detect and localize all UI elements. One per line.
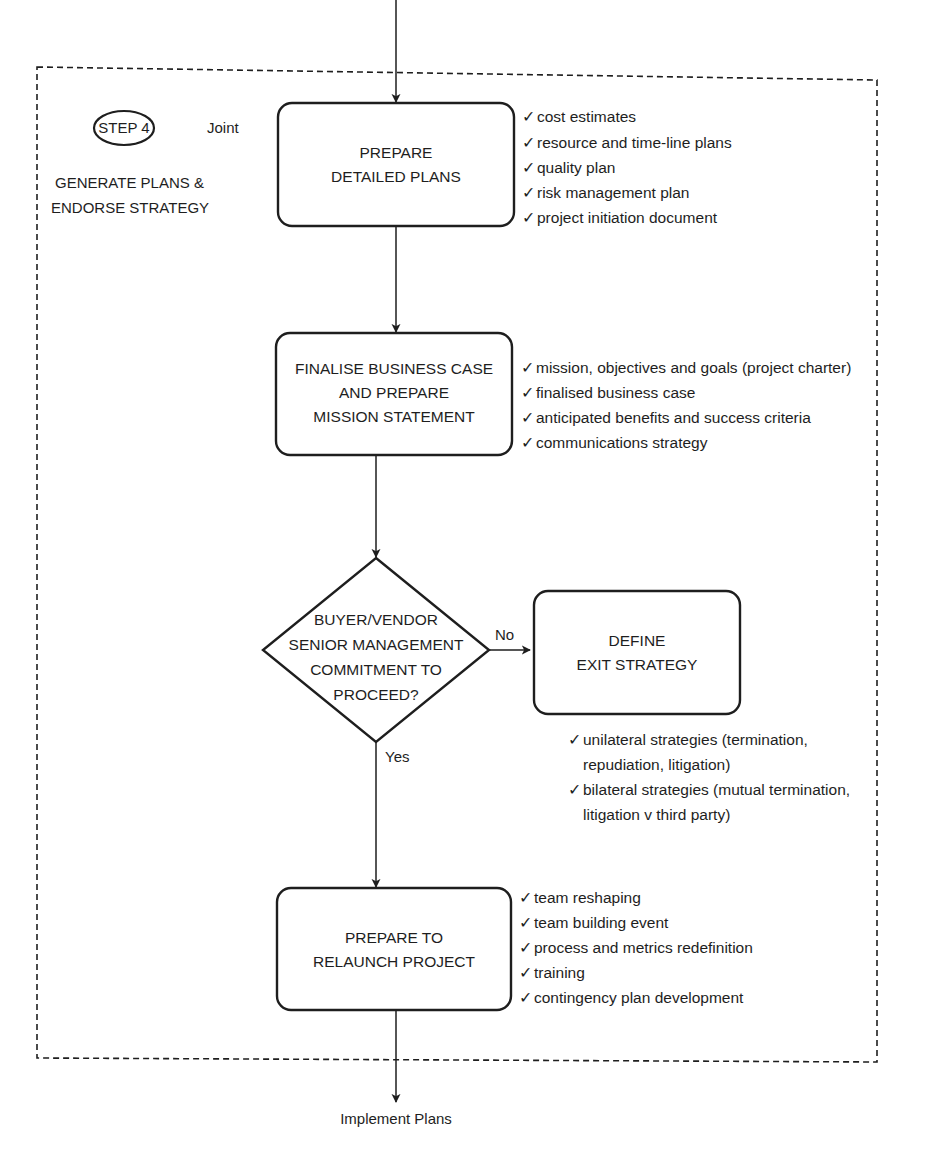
node-define-exit-strategy[interactable]: DEFINE EXIT STRATEGY bbox=[534, 591, 740, 714]
check-icon: ✓ bbox=[522, 108, 535, 125]
node-prepare-to-relaunch[interactable]: PREPARE TO RELAUNCH PROJECT bbox=[277, 888, 511, 1010]
decision-label-line: BUYER/VENDOR bbox=[314, 611, 438, 628]
check-icon: ✓ bbox=[519, 989, 532, 1006]
step-party-label: Joint bbox=[207, 119, 240, 136]
checklist-prepare-to-relaunch: ✓ team reshaping ✓ team building event ✓… bbox=[519, 889, 753, 1006]
decision-commitment[interactable]: BUYER/VENDOR SENIOR MANAGEMENT COMMITMEN… bbox=[263, 558, 489, 742]
node-label-line: EXIT STRATEGY bbox=[577, 656, 698, 673]
checklist-item: anticipated benefits and success criteri… bbox=[536, 409, 811, 426]
checklist-item: resource and time-line plans bbox=[537, 134, 732, 151]
checklist-item: process and metrics redefinition bbox=[534, 939, 753, 956]
checklist-item: mission, objectives and goals (project c… bbox=[536, 359, 851, 376]
node-label-line: MISSION STATEMENT bbox=[313, 408, 475, 425]
checklist-item: team reshaping bbox=[534, 889, 641, 906]
node-prepare-detailed-plans[interactable]: PREPARE DETAILED PLANS bbox=[278, 103, 514, 226]
check-icon: ✓ bbox=[568, 781, 581, 798]
check-icon: ✓ bbox=[522, 159, 535, 176]
no-label: No bbox=[495, 626, 514, 643]
checklist-prepare-detailed-plans: ✓ cost estimates ✓ resource and time-lin… bbox=[522, 108, 732, 226]
node-label-line: DEFINE bbox=[609, 632, 666, 649]
check-icon: ✓ bbox=[519, 964, 532, 981]
step-title-line-1: GENERATE PLANS & bbox=[55, 174, 204, 191]
check-icon: ✓ bbox=[519, 914, 532, 931]
decision-label-line: COMMITMENT TO bbox=[310, 661, 442, 678]
check-icon: ✓ bbox=[522, 209, 535, 226]
checklist-item-continued: litigation v third party) bbox=[583, 806, 730, 823]
checklist-item: contingency plan development bbox=[534, 989, 744, 1006]
checklist-item: team building event bbox=[534, 914, 669, 931]
decision-label-line: SENIOR MANAGEMENT bbox=[289, 636, 464, 653]
node-label-line: FINALISE BUSINESS CASE bbox=[295, 360, 493, 377]
checklist-item: unilateral strategies (termination, bbox=[583, 731, 808, 748]
checklist-item: quality plan bbox=[537, 159, 615, 176]
check-icon: ✓ bbox=[519, 889, 532, 906]
step-title-line-2: ENDORSE STRATEGY bbox=[51, 199, 209, 216]
node-finalise-business-case[interactable]: FINALISE BUSINESS CASE AND PREPARE MISSI… bbox=[276, 333, 512, 455]
node-label-line: PREPARE bbox=[360, 144, 433, 161]
checklist-item: training bbox=[534, 964, 585, 981]
checklist-item: risk management plan bbox=[537, 184, 690, 201]
checklist-item: communications strategy bbox=[536, 434, 708, 451]
output-label: Implement Plans bbox=[340, 1110, 452, 1127]
node-label-line: AND PREPARE bbox=[339, 384, 449, 401]
step-badge-label: STEP 4 bbox=[98, 119, 149, 136]
yes-label: Yes bbox=[385, 748, 409, 765]
check-icon: ✓ bbox=[521, 434, 534, 451]
check-icon: ✓ bbox=[522, 134, 535, 151]
checklist-item-continued: repudiation, litigation) bbox=[583, 756, 730, 773]
node-label-line: RELAUNCH PROJECT bbox=[313, 953, 475, 970]
checklist-item: finalised business case bbox=[536, 384, 695, 401]
check-icon: ✓ bbox=[521, 384, 534, 401]
checklist-define-exit-strategy: ✓ unilateral strategies (termination, re… bbox=[568, 731, 850, 823]
node-label-line: DETAILED PLANS bbox=[331, 168, 461, 185]
checklist-item: project initiation document bbox=[537, 209, 718, 226]
check-icon: ✓ bbox=[521, 409, 534, 426]
checklist-finalise-business-case: ✓ mission, objectives and goals (project… bbox=[521, 359, 851, 451]
check-icon: ✓ bbox=[568, 731, 581, 748]
decision-label-line: PROCEED? bbox=[333, 686, 419, 703]
checklist-item: cost estimates bbox=[537, 108, 636, 125]
checklist-item: bilateral strategies (mutual termination… bbox=[583, 781, 850, 798]
flowchart-canvas: STEP 4 Joint GENERATE PLANS & ENDORSE ST… bbox=[0, 0, 932, 1158]
check-icon: ✓ bbox=[522, 184, 535, 201]
check-icon: ✓ bbox=[521, 359, 534, 376]
node-label-line: PREPARE TO bbox=[345, 929, 443, 946]
check-icon: ✓ bbox=[519, 939, 532, 956]
